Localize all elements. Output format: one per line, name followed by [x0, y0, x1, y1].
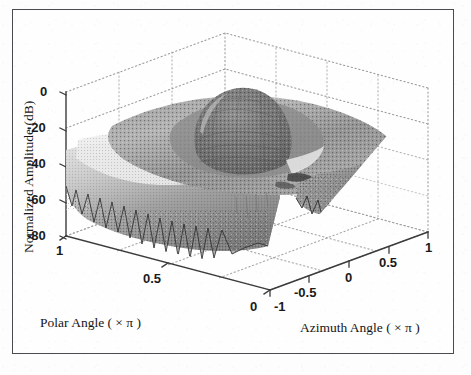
x-axis-label: Azimuth Angle ( × π ): [300, 321, 420, 335]
x-tick-label-3: 0.5: [379, 256, 397, 269]
x-tick-label-4: 1: [425, 241, 432, 254]
z-axis-label: Normalized Amplitude (dB): [22, 101, 36, 253]
y-tick-label-2: 0: [250, 300, 257, 313]
z-tick-label-0: 0: [40, 85, 47, 98]
x-tick-label-2: 0: [345, 271, 352, 284]
z-axis-ticks: [60, 92, 66, 239]
surface-mesh: [66, 88, 428, 259]
x-tick-label-0: -1: [274, 300, 286, 313]
figure-canvas: 0 -20 -40 -60 -80 Normalized Amplitude (…: [0, 0, 471, 375]
x-tick-label-1: -0.5: [294, 286, 316, 299]
y-tick-label-0: 1: [56, 244, 63, 257]
y-axis-label: Polar Angle ( × π ): [40, 316, 141, 330]
y-tick-label-1: 0.5: [143, 272, 161, 285]
